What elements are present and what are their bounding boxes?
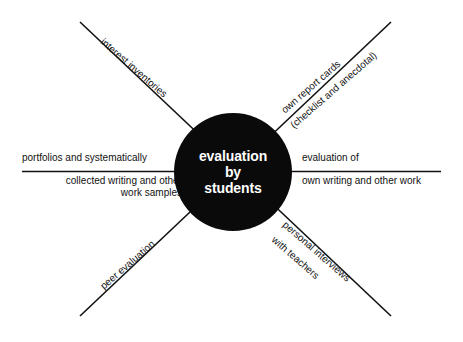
branch-left-label-below: collected writing and other work samples [22,175,182,199]
hub-label-line-2: by [225,164,241,180]
hub-circle: evaluation by students [174,113,292,231]
hub-label-line-3: students [204,180,262,196]
hub-label-line-1: evaluation [199,148,267,164]
branch-left-label-below-line-1: collected writing and other [22,175,182,187]
branch-left-label-above: portfolios and systematically [22,152,182,164]
branch-right-label-above: evaluation of [302,152,359,164]
branch-right-label-below: own writing and other work [302,175,421,187]
branch-left-label-below-line-2: work samples [22,187,182,199]
concept-map-diagram: evaluation by students portfolios and sy… [0,0,463,342]
